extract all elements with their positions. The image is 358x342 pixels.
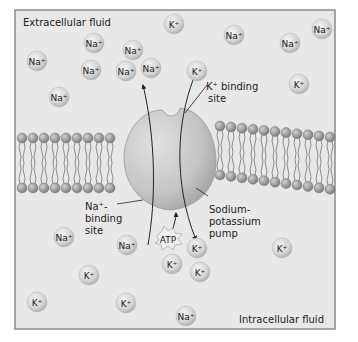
ion-label: Na⁺ [143, 64, 160, 74]
sodium-ion: Na⁺ [224, 25, 244, 45]
na-binding-site-label-1: Na⁺- [85, 201, 108, 212]
ion-label: K⁺ [32, 298, 43, 308]
ion-label: Na⁺ [178, 312, 195, 322]
ion-label: Na⁺ [56, 233, 73, 243]
sodium-ion: Na⁺ [84, 33, 104, 53]
potassium-ion: K⁺ [190, 262, 210, 282]
ion-label: Na⁺ [86, 39, 103, 49]
ion-label: K⁺ [294, 80, 305, 90]
intracellular-label: Intracellular fluid [239, 314, 324, 325]
potassium-ion: K⁺ [79, 265, 99, 285]
sodium-ion: Na⁺ [117, 235, 137, 255]
ion-label: K⁺ [192, 244, 203, 254]
ion-label: K⁺ [169, 20, 180, 30]
pump-label-1: Sodium- [209, 204, 251, 215]
ion-label: Na⁺ [83, 66, 100, 76]
sodium-ion: Na⁺ [141, 58, 161, 78]
potassium-ion: K⁺ [27, 292, 47, 312]
sodium-ion: Na⁺ [312, 19, 332, 39]
ion-label: Na⁺ [118, 67, 135, 77]
sodium-potassium-pump-diagram: K⁺Na⁺Na⁺Na⁺Na⁺Na⁺Na⁺Na⁺Na⁺Na⁺K⁺K⁺Na⁺K⁺Na… [0, 0, 358, 342]
atp-label: ATP [160, 235, 177, 245]
ion-label: Na⁺ [125, 46, 142, 56]
ion-label: K⁺ [84, 271, 95, 281]
na-binding-site-label-3: site [85, 225, 103, 236]
k-binding-site-label-1: K⁺ binding [206, 81, 258, 92]
k-binding-site-label-2: site [208, 93, 226, 104]
potassium-ion: K⁺ [187, 61, 207, 81]
potassium-ion: K⁺ [289, 74, 309, 94]
potassium-ion: K⁺ [187, 238, 207, 258]
ion-label: K⁺ [195, 268, 206, 278]
potassium-ion: K⁺ [116, 293, 136, 313]
ion-label: Na⁺ [226, 31, 243, 41]
potassium-ion: K⁺ [162, 254, 182, 274]
ion-label: K⁺ [192, 67, 203, 77]
ion-label: Na⁺ [119, 241, 136, 251]
sodium-ion: Na⁺ [176, 306, 196, 326]
potassium-ion: K⁺ [164, 14, 184, 34]
pump-label-3: pump [209, 228, 238, 239]
sodium-ion: Na⁺ [116, 61, 136, 81]
ion-label: Na⁺ [314, 25, 331, 35]
ion-label: Na⁺ [51, 93, 68, 103]
ion-label: K⁺ [167, 260, 178, 270]
ion-label: Na⁺ [29, 57, 46, 67]
sodium-ion: Na⁺ [123, 40, 143, 60]
sodium-ion: Na⁺ [27, 51, 47, 71]
pump-label-2: potassium [209, 216, 261, 227]
ion-label: K⁺ [121, 299, 132, 309]
sodium-ion: Na⁺ [280, 33, 300, 53]
sodium-ion: Na⁺ [81, 60, 101, 80]
sodium-ion: Na⁺ [54, 227, 74, 247]
extracellular-label: Extracellular fluid [23, 17, 111, 28]
ion-label: Na⁺ [282, 39, 299, 49]
na-binding-site-label-2: binding [85, 213, 122, 224]
sodium-ion: Na⁺ [49, 87, 69, 107]
ion-label: K⁺ [277, 244, 288, 254]
potassium-ion: K⁺ [272, 238, 292, 258]
